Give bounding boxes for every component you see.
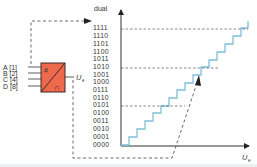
- dac-diagram: # ∩ U e A [1] B [2] C [4] D [8] dual U e…: [0, 0, 257, 167]
- block-symbol-analog: ∩: [54, 83, 60, 92]
- input-label-d: D [8]: [3, 83, 18, 91]
- code-label: 1101: [93, 40, 109, 47]
- output-arrow-head: [195, 75, 201, 86]
- staircase-line: [121, 21, 248, 145]
- input-arrow-head: [84, 18, 92, 24]
- block-symbol-digital: #: [44, 67, 48, 74]
- code-label: 1010: [93, 63, 109, 70]
- y-axis-label: dual: [94, 5, 108, 12]
- code-label: 1111: [93, 24, 108, 31]
- code-label: 0010: [93, 125, 109, 132]
- code-label: 0001: [93, 133, 109, 140]
- bottom-strip: [0, 164, 257, 167]
- block-output-sub: e: [82, 78, 85, 83]
- x-axis-label-sub: e: [248, 158, 251, 163]
- code-label: 0110: [93, 94, 109, 101]
- code-labels: 1111 1110 1101 1100 1011 1010 1001 1000 …: [93, 24, 109, 148]
- code-label: 1001: [93, 71, 109, 78]
- code-label: 0000: [93, 141, 109, 148]
- input-dashed-path: [31, 21, 86, 64]
- code-label: 1110: [93, 32, 108, 39]
- code-label: 1011: [93, 55, 109, 62]
- code-label: 1000: [93, 78, 109, 85]
- code-label: 0101: [93, 101, 109, 108]
- code-label: 0111: [93, 86, 108, 93]
- code-label: 0011: [93, 117, 109, 124]
- code-label: 0100: [93, 109, 109, 116]
- code-label: 1100: [93, 48, 109, 55]
